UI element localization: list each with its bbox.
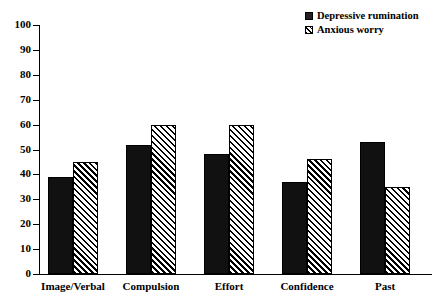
- y-axis-tick-label: 20: [3, 218, 31, 229]
- y-axis-label-slot: 60: [0, 125, 31, 126]
- y-axis-tick-label: 90: [3, 44, 31, 55]
- y-axis-label-slot: 70: [0, 100, 31, 101]
- bar-depressive-rumination: [282, 182, 307, 274]
- bar-depressive-rumination: [48, 177, 73, 274]
- y-axis-tick-label: 10: [3, 243, 31, 254]
- y-axis-label-slot: 50: [0, 150, 31, 151]
- bar-depressive-rumination: [126, 145, 151, 274]
- y-axis-label-slot: 90: [0, 50, 31, 51]
- y-axis-label-slot: 0: [0, 274, 31, 275]
- y-axis-tick-label: 70: [3, 94, 31, 105]
- hatched-square-icon: [305, 26, 313, 34]
- bar-anxious-worry: [73, 162, 98, 274]
- legend-label: Anxious worry: [317, 23, 384, 37]
- bar-anxious-worry: [385, 187, 410, 274]
- legend-item-anxious-worry: Anxious worry: [305, 23, 419, 37]
- x-axis-line: [39, 274, 432, 275]
- legend-item-depressive-rumination: Depressive rumination: [305, 9, 419, 23]
- y-axis-tick-label: 30: [3, 193, 31, 204]
- solid-square-icon: [305, 12, 313, 20]
- x-axis-category-label: Image/Verbal: [28, 281, 118, 292]
- legend-label: Depressive rumination: [317, 9, 419, 23]
- x-axis-category-label: Confidence: [262, 281, 352, 292]
- y-axis-tick-label: 60: [3, 119, 31, 130]
- y-axis-tick-label: 80: [3, 69, 31, 80]
- bar-chart: 0102030405060708090100 Image/VerbalCompu…: [0, 0, 439, 301]
- bar-anxious-worry: [229, 125, 254, 274]
- y-axis-tick-label: 100: [3, 19, 31, 30]
- chart-legend: Depressive rumination Anxious worry: [305, 9, 419, 37]
- bar-depressive-rumination: [204, 154, 229, 274]
- x-axis-category-label: Compulsion: [106, 281, 196, 292]
- bar-anxious-worry: [307, 159, 332, 274]
- y-axis-label-slot: 20: [0, 224, 31, 225]
- y-axis-label-slot: 40: [0, 174, 31, 175]
- y-axis-label-slot: 100: [0, 25, 31, 26]
- y-axis-label-slot: 10: [0, 249, 31, 250]
- x-axis-category-label: Effort: [184, 281, 274, 292]
- bar-anxious-worry: [151, 125, 176, 274]
- y-axis-label-slot: 30: [0, 199, 31, 200]
- bar-depressive-rumination: [360, 142, 385, 274]
- y-axis-tick-label: 40: [3, 168, 31, 179]
- y-axis-tick-label: 50: [3, 144, 31, 155]
- y-axis-tick: [33, 274, 39, 275]
- x-axis-category-label: Past: [340, 281, 430, 292]
- y-axis-tick-label: 0: [3, 268, 31, 279]
- y-axis-label-slot: 80: [0, 75, 31, 76]
- plot-area: [39, 25, 431, 274]
